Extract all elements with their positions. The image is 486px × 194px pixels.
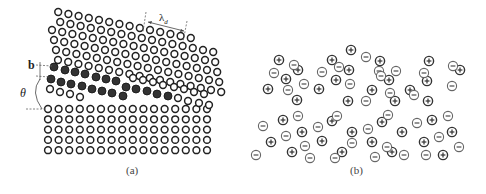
- open-atom: [140, 77, 147, 84]
- positive-ion: [397, 127, 406, 136]
- positive-ion: [344, 65, 353, 74]
- open-atom: [172, 137, 179, 144]
- lambda-subscript: d: [164, 18, 168, 26]
- open-atom: [157, 29, 164, 36]
- open-atom: [161, 116, 168, 123]
- negative-ion: [347, 138, 356, 147]
- dislocation-atom: [81, 70, 89, 78]
- open-atom: [55, 57, 62, 64]
- open-atom: [132, 53, 139, 60]
- open-atom: [55, 9, 62, 16]
- open-atom: [161, 147, 168, 154]
- open-atom: [206, 77, 213, 84]
- open-atom: [87, 126, 94, 133]
- open-atom: [175, 71, 182, 78]
- open-atom: [172, 126, 179, 133]
- open-atom: [67, 91, 74, 98]
- positive-ion: [297, 127, 306, 136]
- open-atom: [151, 47, 158, 54]
- open-atom: [179, 43, 186, 50]
- open-atom: [171, 51, 178, 58]
- open-atom: [182, 126, 189, 133]
- open-atom: [71, 41, 78, 48]
- open-atom: [138, 35, 145, 42]
- dislocation-atom: [47, 75, 55, 83]
- positive-ion: [274, 55, 283, 64]
- negative-ion: [382, 142, 391, 151]
- open-atom: [151, 137, 158, 144]
- open-atom: [208, 87, 215, 94]
- panel-b-ionic-crystal: [251, 45, 464, 162]
- negative-ion: [334, 62, 343, 71]
- open-atom: [110, 39, 117, 46]
- open-atom: [116, 21, 123, 28]
- open-atom: [114, 59, 121, 66]
- negative-ion: [454, 142, 463, 151]
- negative-ion: [283, 85, 292, 94]
- open-atom: [69, 31, 76, 38]
- negative-ion: [345, 79, 354, 88]
- open-atom: [130, 75, 137, 82]
- open-atom: [153, 57, 160, 64]
- open-atom: [149, 37, 156, 44]
- open-atom: [45, 147, 52, 154]
- open-atom: [189, 45, 196, 52]
- negative-ion: [251, 150, 260, 159]
- open-atom: [134, 63, 141, 70]
- open-atom: [76, 126, 83, 133]
- open-atom: [100, 37, 107, 44]
- open-atom: [182, 116, 189, 123]
- open-atom: [95, 65, 102, 72]
- open-atom: [119, 116, 126, 123]
- b-dash-bottom: [36, 76, 49, 77]
- negative-ion: [317, 67, 326, 76]
- negative-ion: [361, 52, 370, 61]
- open-atom: [59, 29, 66, 36]
- open-atom: [155, 67, 162, 74]
- open-atom: [165, 69, 172, 76]
- open-atom: [204, 116, 211, 123]
- dislocation-atom: [98, 87, 106, 95]
- open-atom: [106, 19, 113, 26]
- open-atom: [182, 137, 189, 144]
- positive-ion: [424, 56, 433, 65]
- figure: [0, 0, 486, 194]
- open-atom: [122, 51, 129, 58]
- open-atom: [140, 126, 147, 133]
- open-atom: [187, 35, 194, 42]
- open-atom: [204, 147, 211, 154]
- open-atom: [53, 47, 60, 54]
- open-atom: [63, 49, 70, 56]
- negative-ion: [448, 61, 457, 70]
- lambda-dash-right: [183, 21, 187, 42]
- caption-a: (a): [126, 164, 138, 176]
- open-atom: [200, 47, 207, 54]
- positive-ion: [343, 96, 352, 105]
- open-atom: [206, 102, 213, 109]
- open-atom: [55, 106, 62, 113]
- theta-arc: [35, 79, 42, 109]
- open-atom: [140, 116, 147, 123]
- open-atom: [61, 39, 68, 46]
- open-atom: [163, 59, 170, 66]
- dislocation-atom: [164, 92, 172, 100]
- open-atom: [75, 61, 82, 68]
- open-atom: [196, 100, 203, 107]
- open-atom: [76, 137, 83, 144]
- lower-lattice: [45, 106, 211, 154]
- positive-ion: [438, 150, 447, 159]
- open-atom: [85, 15, 92, 22]
- dislocation-atom: [122, 83, 130, 91]
- open-atom: [98, 116, 105, 123]
- negative-ion: [281, 131, 290, 140]
- open-atom: [177, 33, 184, 40]
- open-atom: [129, 116, 136, 123]
- negative-ion: [409, 90, 418, 99]
- open-atom: [96, 17, 103, 24]
- lambda-label: λd: [159, 11, 168, 26]
- negative-ion: [383, 110, 392, 119]
- open-atom: [98, 106, 105, 113]
- open-atom: [67, 21, 74, 28]
- dislocation-atom: [119, 92, 127, 100]
- open-atom: [172, 147, 179, 154]
